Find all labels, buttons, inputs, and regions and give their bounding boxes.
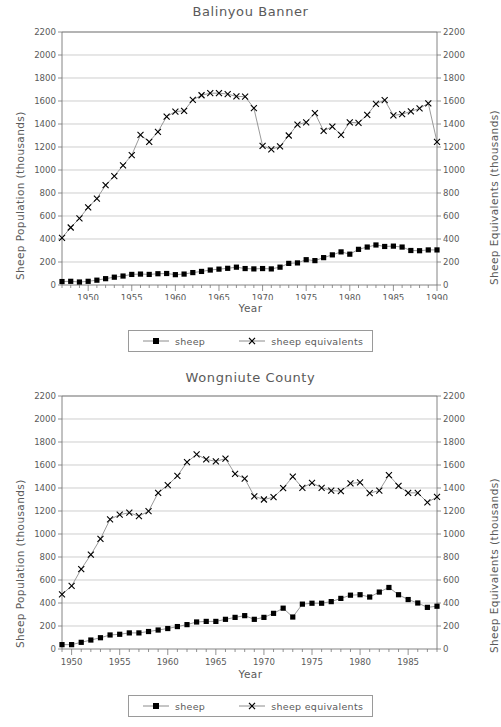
chart-panel-wongniute-county: Wongniute County Sheep Population (thous… (0, 363, 501, 727)
svg-text:1980: 1980 (349, 657, 371, 667)
svg-text:1600: 1600 (34, 460, 56, 470)
legend-entry-sheep-equivalents: sheep equivalents (239, 335, 363, 347)
svg-text:600: 600 (40, 575, 56, 585)
svg-text:1200: 1200 (34, 142, 56, 152)
filled-square-icon (143, 700, 169, 712)
svg-text:2000: 2000 (34, 414, 56, 424)
svg-text:800: 800 (443, 188, 459, 198)
svg-text:800: 800 (443, 552, 459, 562)
svg-text:1800: 1800 (443, 437, 465, 447)
svg-text:0: 0 (51, 644, 56, 654)
chart-legend: sheepsheep equivalents (128, 695, 373, 717)
svg-text:1600: 1600 (443, 460, 465, 470)
svg-text:1985: 1985 (382, 293, 404, 300)
x-axis-label: Year (0, 668, 501, 680)
svg-text:1965: 1965 (208, 293, 230, 300)
svg-text:400: 400 (443, 234, 459, 244)
x-cross-icon (239, 335, 265, 347)
chart-legend: sheepsheep equivalents (128, 330, 373, 352)
svg-text:1985: 1985 (397, 657, 419, 667)
svg-text:400: 400 (40, 598, 56, 608)
svg-text:1000: 1000 (443, 165, 465, 175)
svg-text:2200: 2200 (443, 391, 465, 401)
svg-text:0: 0 (443, 644, 448, 654)
svg-text:1970: 1970 (252, 293, 274, 300)
svg-text:400: 400 (40, 234, 56, 244)
svg-text:2200: 2200 (34, 27, 56, 37)
svg-text:1980: 1980 (339, 293, 361, 300)
svg-text:400: 400 (443, 598, 459, 608)
svg-text:1800: 1800 (443, 73, 465, 83)
svg-text:1000: 1000 (34, 529, 56, 539)
svg-text:1000: 1000 (34, 165, 56, 175)
svg-text:1990: 1990 (426, 293, 448, 300)
svg-text:1960: 1960 (164, 293, 186, 300)
svg-text:1200: 1200 (34, 506, 56, 516)
legend-label: sheep equivalents (271, 336, 363, 347)
svg-text:1960: 1960 (157, 657, 179, 667)
svg-text:800: 800 (40, 552, 56, 562)
svg-text:1950: 1950 (61, 657, 83, 667)
svg-text:1800: 1800 (34, 437, 56, 447)
svg-text:1400: 1400 (443, 483, 465, 493)
svg-text:2200: 2200 (34, 391, 56, 401)
legend-entry-sheep-equivalents: sheep equivalents (239, 700, 363, 712)
svg-text:200: 200 (443, 257, 459, 267)
legend-entry-sheep: sheep (143, 700, 205, 712)
legend-label: sheep equivalents (271, 701, 363, 712)
x-axis-label: Year (0, 302, 501, 314)
svg-text:1955: 1955 (109, 657, 131, 667)
svg-text:0: 0 (51, 280, 56, 290)
svg-text:200: 200 (40, 621, 56, 631)
svg-text:1975: 1975 (301, 657, 323, 667)
plot-area: 0020020040040060060080080010001000120012… (0, 0, 501, 300)
svg-text:800: 800 (40, 188, 56, 198)
svg-text:1000: 1000 (443, 529, 465, 539)
svg-text:0: 0 (443, 280, 448, 290)
svg-text:2000: 2000 (443, 414, 465, 424)
x-cross-icon (239, 700, 265, 712)
svg-text:2200: 2200 (443, 27, 465, 37)
svg-text:1975: 1975 (295, 293, 317, 300)
svg-text:1400: 1400 (34, 119, 56, 129)
svg-text:1200: 1200 (443, 142, 465, 152)
svg-text:1955: 1955 (121, 293, 143, 300)
svg-text:1800: 1800 (34, 73, 56, 83)
svg-text:200: 200 (443, 621, 459, 631)
chart-panel-balinyou-banner: Balinyou Banner Sheep Population (thousa… (0, 0, 501, 363)
svg-text:600: 600 (443, 575, 459, 585)
svg-text:200: 200 (40, 257, 56, 267)
plot-area: 0020020040040060060080080010001000120012… (0, 366, 501, 668)
svg-text:1970: 1970 (253, 657, 275, 667)
svg-text:1965: 1965 (205, 657, 227, 667)
svg-text:1400: 1400 (34, 483, 56, 493)
svg-text:1200: 1200 (443, 506, 465, 516)
svg-text:600: 600 (443, 211, 459, 221)
svg-text:1400: 1400 (443, 119, 465, 129)
svg-text:2000: 2000 (443, 50, 465, 60)
legend-label: sheep (175, 336, 205, 347)
svg-text:600: 600 (40, 211, 56, 221)
svg-text:1600: 1600 (443, 96, 465, 106)
svg-text:1600: 1600 (34, 96, 56, 106)
filled-square-icon (143, 335, 169, 347)
svg-text:1950: 1950 (77, 293, 99, 300)
svg-text:2000: 2000 (34, 50, 56, 60)
legend-label: sheep (175, 701, 205, 712)
legend-entry-sheep: sheep (143, 335, 205, 347)
